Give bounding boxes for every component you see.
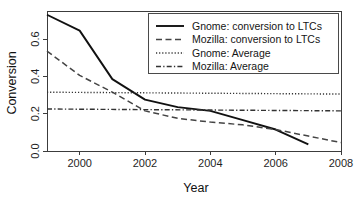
x-tick-label: 2002	[133, 157, 157, 169]
conversion-line-chart: 0.00.20.40.6 20002002200420062008 Gnome:…	[0, 0, 358, 199]
x-axis-title: Year	[183, 181, 208, 195]
legend-label-3: Mozilla: Average	[192, 60, 269, 72]
legend-label-2: Gnome: Average	[192, 47, 271, 59]
y-axis-title: Conversion	[5, 51, 19, 114]
legend-label-1: Mozilla: conversion to LTCs	[192, 33, 320, 45]
y-tick-label: 0.6	[29, 31, 41, 46]
chart-legend: Gnome: conversion to LTCsMozilla: conver…	[148, 13, 338, 73]
y-tick-label: 0.0	[29, 143, 41, 158]
y-tick-label: 0.2	[29, 106, 41, 121]
x-tick-label: 2008	[329, 157, 353, 169]
legend-label-0: Gnome: conversion to LTCs	[192, 20, 322, 32]
chart-canvas: 0.00.20.40.6 20002002200420062008 Gnome:…	[0, 0, 358, 199]
x-tick-label: 2000	[67, 157, 91, 169]
x-tick-label: 2004	[198, 157, 222, 169]
x-tick-label: 2006	[263, 157, 287, 169]
y-tick-label: 0.4	[29, 69, 41, 84]
